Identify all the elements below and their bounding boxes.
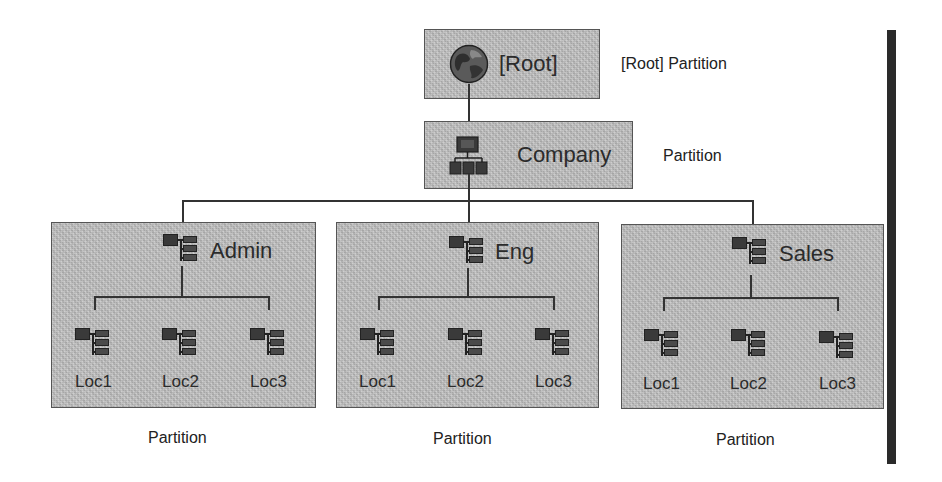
tree-node-icon [448,328,484,360]
sales-loc1-drop [663,297,665,311]
admin-partition-label: Partition [148,430,207,446]
sales-partition-label: Partition [716,432,775,448]
company-label: Company [517,144,611,166]
company-partition-label: Partition [663,148,722,164]
root-label: [Root] [499,53,558,75]
admin-drop-connector [182,200,184,223]
tree-node-icon [360,328,396,360]
tree-node-icon [449,236,485,268]
tree-node-icon [644,329,680,361]
sales-inner-trunk [750,275,752,297]
admin-label: Admin [210,240,272,262]
department-branch-connector [182,200,754,202]
tree-node-icon [75,328,111,360]
sales-loc3-label: Loc3 [819,375,856,392]
sales-loc2-label: Loc2 [730,375,767,392]
admin-loc3-drop [268,296,270,310]
tree-node-icon [819,331,855,363]
globe-icon [449,44,489,84]
admin-inner-branch [94,296,270,298]
eng-inner-branch [378,296,555,298]
tree-node-icon [535,328,571,360]
tree-node-icon [162,328,198,360]
eng-loc3-label: Loc3 [535,373,572,390]
admin-loc1-drop [94,296,96,310]
org-chart-icon [449,136,491,178]
company-down-connector [468,174,470,224]
sales-label: Sales [779,243,834,265]
eng-inner-trunk [467,268,469,297]
tree-node-icon [732,237,768,269]
admin-loc2-label: Loc2 [162,373,199,390]
admin-loc1-label: Loc1 [75,373,112,390]
sales-loc3-drop [837,297,839,311]
admin-loc3-label: Loc3 [250,373,287,390]
eng-label: Eng [495,241,534,263]
eng-loc3-drop [553,296,555,310]
page-edge-bar [887,30,896,464]
eng-loc1-label: Loc1 [359,373,396,390]
admin-inner-trunk [181,266,183,297]
eng-partition-label: Partition [433,431,492,447]
sales-loc1-label: Loc1 [643,375,680,392]
tree-node-icon [163,234,199,266]
root-partition-label: [Root] Partition [621,56,727,72]
eng-loc2-label: Loc2 [447,373,484,390]
tree-node-icon [731,329,767,361]
sales-inner-branch [663,297,839,299]
eng-loc1-drop [378,296,380,310]
tree-node-icon [250,328,286,360]
sales-drop-connector [752,200,754,224]
